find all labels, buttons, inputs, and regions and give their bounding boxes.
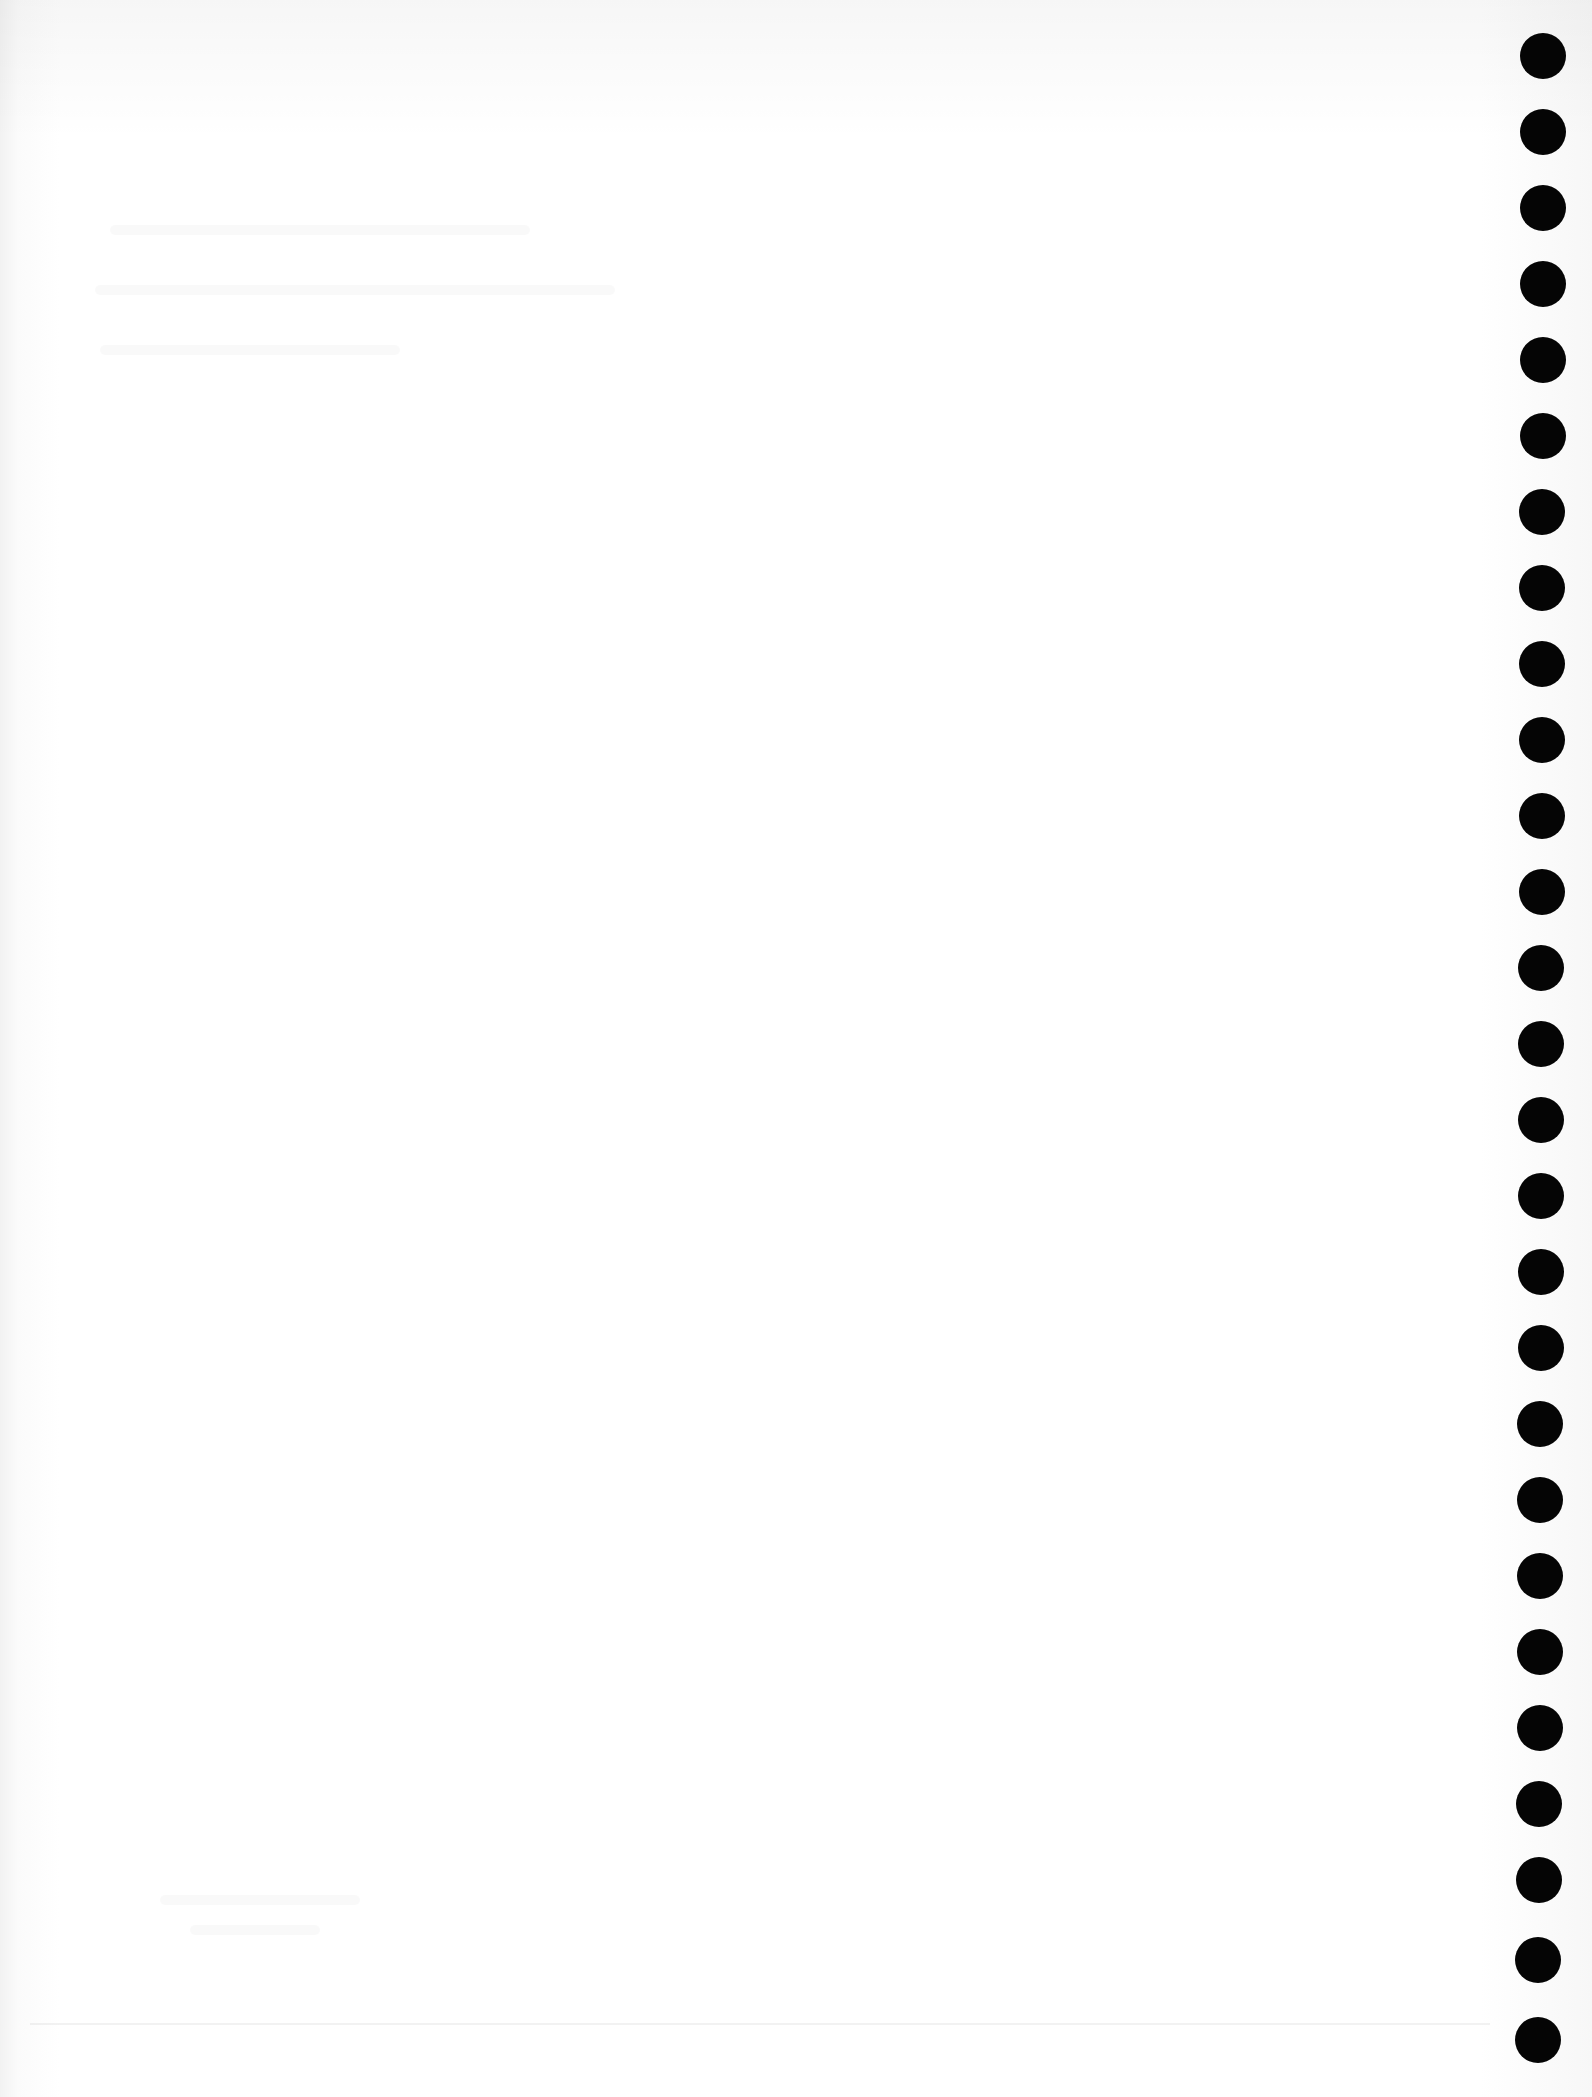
punch-hole-icon [1520,337,1566,383]
punch-hole-icon [1517,1629,1563,1675]
punch-hole-icon [1520,261,1566,307]
punch-hole-icon [1518,1249,1564,1295]
punch-hole-icon [1517,1401,1563,1447]
punch-hole-icon [1518,1097,1564,1143]
punch-hole-icon [1519,489,1565,535]
punch-hole-icon [1518,945,1564,991]
punch-hole-icon [1520,185,1566,231]
punch-hole-icon [1520,33,1566,79]
punch-hole-icon [1517,1553,1563,1599]
punch-hole-icon [1520,109,1566,155]
punch-hole-icon [1518,1021,1564,1067]
punch-hole-icon [1516,1857,1562,1903]
punch-hole-icon [1519,717,1565,763]
punch-hole-icon [1520,413,1566,459]
punch-hole-column [0,0,1592,2097]
punch-hole-icon [1515,2017,1561,2063]
punch-hole-icon [1517,1477,1563,1523]
punch-hole-icon [1515,1937,1561,1983]
punch-hole-icon [1518,1173,1564,1219]
punch-hole-icon [1519,793,1565,839]
punch-hole-icon [1517,1705,1563,1751]
blank-page [0,0,1592,2097]
punch-hole-icon [1516,1781,1562,1827]
punch-hole-icon [1518,1325,1564,1371]
punch-hole-icon [1519,565,1565,611]
punch-hole-icon [1519,869,1565,915]
punch-hole-icon [1519,641,1565,687]
